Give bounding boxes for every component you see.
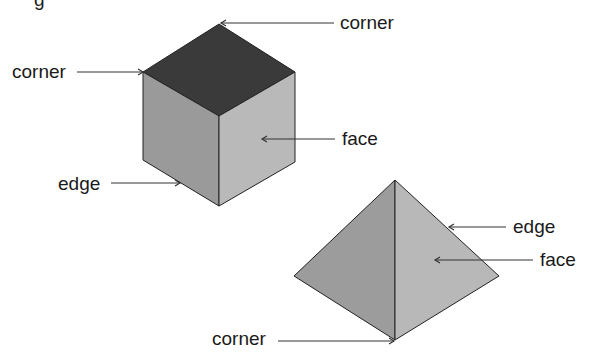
cube-left-corner-callout: corner bbox=[12, 61, 143, 82]
label-pyramid-edge: edge bbox=[513, 216, 555, 237]
pyramid-corner-callout: corner bbox=[212, 328, 394, 349]
pyramid-left-face bbox=[294, 180, 395, 340]
solid-shapes-diagram: g corner corner face edge edge bbox=[0, 0, 594, 362]
label-cube-left-corner: corner bbox=[12, 61, 67, 82]
label-cube-top-corner: corner bbox=[340, 12, 395, 33]
label-pyramid-face: face bbox=[540, 249, 576, 270]
cube-edge-callout: edge bbox=[58, 173, 180, 194]
label-cube-face: face bbox=[342, 128, 378, 149]
label-cube-edge: edge bbox=[58, 173, 100, 194]
cube-top-corner-callout: corner bbox=[221, 12, 395, 33]
cube bbox=[143, 24, 295, 206]
pyramid-edge-callout: edge bbox=[449, 216, 555, 237]
title-fragment: g bbox=[34, 0, 45, 10]
label-pyramid-corner: corner bbox=[212, 328, 267, 349]
